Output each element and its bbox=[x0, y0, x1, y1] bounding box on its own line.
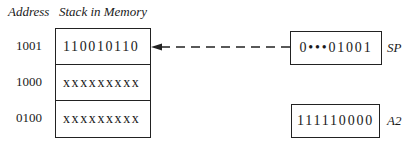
a2-value: 111110000 bbox=[297, 113, 374, 129]
sp-register-box: 0•••01001 bbox=[290, 31, 382, 65]
a2-register-box: 111110000 bbox=[291, 104, 380, 138]
sp-value: 0•••01001 bbox=[300, 40, 373, 56]
a2-label: A2 bbox=[387, 113, 401, 129]
sp-label: SP bbox=[387, 40, 401, 56]
